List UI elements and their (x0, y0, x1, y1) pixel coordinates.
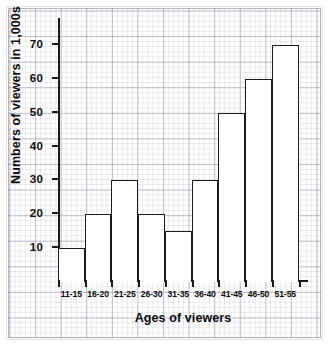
x-tick (245, 280, 247, 287)
x-tick (218, 280, 220, 287)
y-tick-label: 20 (30, 207, 43, 219)
bar (218, 113, 245, 282)
bar (272, 45, 299, 282)
bar-chart-screenshot: 10203040506070 11-1516-2021-2526-3031-35… (0, 0, 331, 346)
x-category-label: 21-25 (111, 289, 138, 299)
y-tick-label: 50 (30, 106, 43, 118)
x-category-label: 16-20 (85, 289, 112, 299)
bar (85, 214, 112, 282)
x-axis-title: Ages of viewers (58, 311, 308, 325)
x-tick (111, 280, 113, 287)
bar (58, 248, 85, 282)
y-tick: 30 (52, 178, 60, 180)
plot-area: 10203040506070 11-1516-2021-2526-3031-35… (58, 18, 308, 282)
x-category-label: 36-40 (192, 289, 219, 299)
x-tick (299, 280, 301, 287)
x-tick (85, 280, 87, 287)
x-category-label: 41-45 (218, 289, 245, 299)
y-tick-label: 70 (30, 38, 43, 50)
y-tick: 10 (52, 246, 60, 248)
bar (165, 231, 192, 282)
y-tick: 20 (52, 212, 60, 214)
x-tick (138, 280, 140, 287)
bar (138, 214, 165, 282)
y-tick: 40 (52, 145, 60, 147)
x-category-label: 46-50 (245, 289, 272, 299)
y-tick-label: 10 (30, 241, 43, 253)
x-category-label: 31-35 (165, 289, 192, 299)
x-tick (272, 280, 274, 287)
y-tick-label: 60 (30, 72, 43, 84)
x-category-label: 51-55 (272, 289, 299, 299)
x-tick (192, 280, 194, 287)
y-axis-title: Numbers of viewers in 1,000s (9, 0, 23, 195)
x-tick (165, 280, 167, 287)
y-tick: 60 (52, 77, 60, 79)
bar (192, 180, 219, 282)
y-tick: 70 (52, 43, 60, 45)
x-category-label: 26-30 (138, 289, 165, 299)
y-tick-label: 40 (30, 140, 43, 152)
x-tick-origin (58, 280, 60, 287)
bar (111, 180, 138, 282)
y-axis-line (58, 18, 60, 282)
y-tick: 50 (52, 111, 60, 113)
y-tick-label: 30 (30, 173, 43, 185)
bar (245, 79, 272, 282)
x-category-label: 11-15 (58, 289, 85, 299)
